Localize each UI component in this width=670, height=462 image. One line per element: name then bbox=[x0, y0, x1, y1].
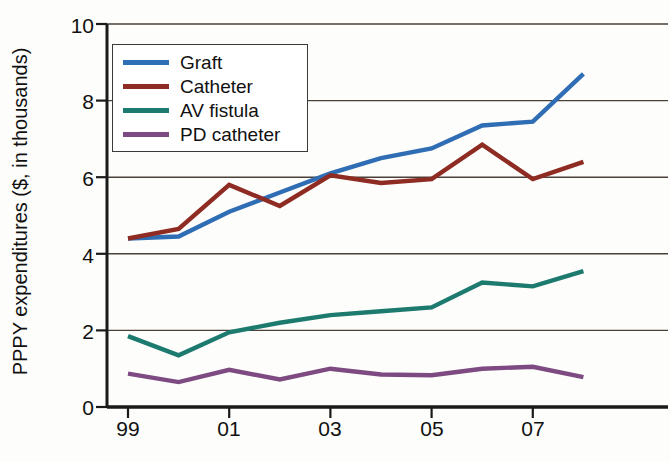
legend-swatch-catheter bbox=[123, 84, 169, 89]
legend-swatch-pd-catheter bbox=[123, 132, 169, 137]
line-chart: PPPY expenditures ($, in thousands) 10 8… bbox=[0, 0, 670, 462]
plot-area bbox=[0, 0, 670, 462]
series-line-pd-catheter bbox=[128, 367, 583, 382]
y-axis-tick-marks bbox=[96, 24, 107, 407]
legend-label-graft: Graft bbox=[180, 53, 222, 72]
legend-item-av-fistula: AV fistula bbox=[123, 98, 307, 122]
legend-swatch-graft bbox=[123, 60, 169, 65]
legend: Graft Catheter AV fistula PD catheter bbox=[112, 44, 308, 152]
legend-label-av-fistula: AV fistula bbox=[180, 101, 259, 120]
legend-item-pd-catheter: PD catheter bbox=[123, 122, 307, 146]
legend-label-catheter: Catheter bbox=[180, 77, 253, 96]
series-line-av-fistula bbox=[128, 271, 583, 355]
legend-item-catheter: Catheter bbox=[123, 74, 307, 98]
legend-label-pd-catheter: PD catheter bbox=[180, 125, 280, 144]
legend-swatch-av-fistula bbox=[123, 108, 169, 113]
series-line-catheter bbox=[128, 145, 583, 239]
legend-item-graft: Graft bbox=[123, 50, 307, 74]
